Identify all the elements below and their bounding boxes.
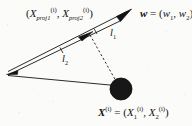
baseline-origin-to-data-point — [8, 76, 115, 86]
l1-subscript: 1 — [113, 33, 116, 40]
projection-dashed-line — [90, 35, 116, 81]
projection-var-1-subscript: proj1 — [36, 14, 50, 21]
segment-l2-label: l2 — [62, 54, 68, 66]
vector-w-shaft-lower — [8, 21, 120, 75]
vector-w-arrowhead — [117, 9, 132, 22]
paren-close: ) — [89, 7, 93, 19]
l2-subscript: 2 — [65, 59, 68, 66]
projection-diagram-figure: (Xproj1(i), Xproj2(i)) w = (w1, w2) l1 l… — [0, 0, 192, 126]
segment-l1-label: l1 — [110, 28, 116, 40]
scan-noise — [7, 24, 186, 113]
data-point-component-1: X — [127, 106, 134, 118]
weight-paren-close: ) — [190, 7, 193, 19]
data-point-component-1-subscript: 1 — [134, 113, 137, 120]
data-point-paren-close: ) — [165, 106, 169, 118]
weight-component-1: w — [163, 7, 170, 19]
weight-vector-label: w = (w1, w2) — [140, 8, 192, 22]
weight-equals: = ( — [147, 7, 162, 19]
data-point-component-2-subscript: 2 — [155, 113, 158, 120]
projection-var-2: X — [62, 7, 69, 19]
data-point-label: X(i) = (X1(i), X2(i)) — [98, 106, 169, 120]
data-point-equals: = ( — [112, 106, 127, 118]
projection-var-2-subscript: proj2 — [69, 14, 83, 21]
projection-point-label: (Xproj1(i), Xproj2(i)) — [26, 7, 93, 21]
data-point-marker — [110, 78, 132, 100]
